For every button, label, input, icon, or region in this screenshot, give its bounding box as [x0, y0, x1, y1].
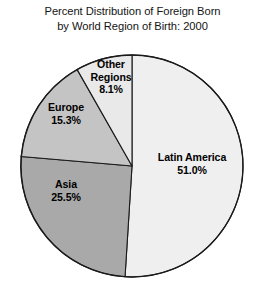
pie-label-europe-value: 15.3%: [22, 114, 110, 127]
pie-label-europe: Europe 15.3%: [22, 101, 110, 126]
pie-label-asia-value: 25.5%: [18, 191, 114, 204]
pie-slice-asia[interactable]: [21, 157, 132, 277]
pie-label-latin-america: Latin America 51.0%: [140, 151, 244, 176]
pie-label-asia-name: Asia: [18, 178, 114, 191]
pie-label-other-regions-name-line-1: Other: [74, 58, 148, 71]
pie-chart-figure: Percent Distribution of Foreign Born by …: [0, 0, 265, 298]
pie-label-europe-name: Europe: [22, 101, 110, 114]
pie-label-other-regions-value: 8.1%: [74, 83, 148, 96]
pie-label-latin-america-name: Latin America: [140, 151, 244, 164]
pie-label-other-regions-name-line-2: Regions: [74, 71, 148, 84]
pie-label-latin-america-value: 51.0%: [140, 164, 244, 177]
pie-chart-graphic: [0, 0, 265, 298]
pie-label-asia: Asia 25.5%: [18, 178, 114, 203]
pie-label-other-regions: Other Regions 8.1%: [74, 58, 148, 96]
